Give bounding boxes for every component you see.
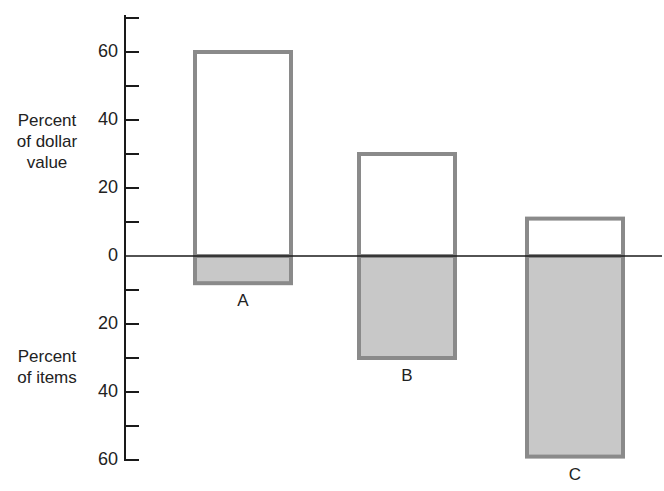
category-label-b: B	[387, 366, 427, 386]
category-label-a: A	[223, 291, 263, 311]
y-tick-label: 20	[78, 177, 118, 198]
bar-dollar-value-c	[527, 219, 623, 256]
y-tick-label: 0	[78, 245, 118, 266]
bar-items-c	[527, 256, 623, 457]
bar-items-b	[359, 256, 455, 358]
category-label-c: C	[555, 465, 595, 485]
y-tick-label: 60	[78, 449, 118, 470]
y-tick-label: 20	[78, 313, 118, 334]
label-line: value	[4, 152, 90, 173]
bar-dollar-value-a	[195, 52, 291, 256]
abc-analysis-chart: Percent of dollar value Percent of items…	[0, 0, 664, 491]
label-line: Percent	[4, 346, 90, 367]
bar-dollar-value-b	[359, 154, 455, 256]
y-tick-label: 60	[78, 41, 118, 62]
y-tick-label: 40	[78, 109, 118, 130]
label-line: of dollar	[4, 131, 90, 152]
bar-items-a	[195, 256, 291, 283]
y-tick-label: 40	[78, 381, 118, 402]
